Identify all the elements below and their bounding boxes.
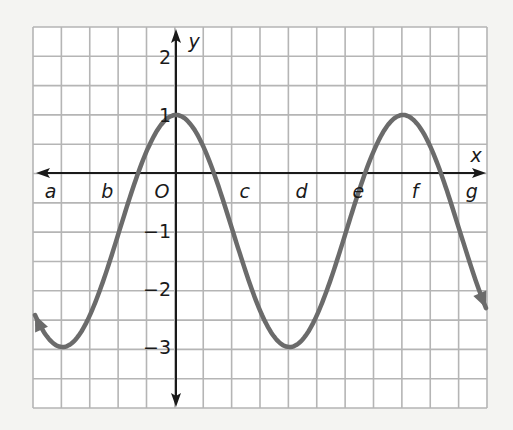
y-tick-label: −3: [143, 336, 171, 358]
x-axis-label: x: [469, 144, 482, 166]
x-tick-label: a: [45, 180, 57, 202]
y-tick-label: −1: [143, 220, 171, 242]
x-tick-label: b: [101, 180, 113, 202]
x-tick-label: O: [155, 180, 170, 202]
cosine-graph: abOcdefg21−1−2−3xy: [0, 0, 513, 430]
x-tick-label: c: [240, 180, 251, 202]
y-tick-label: 2: [159, 46, 171, 68]
y-tick-label: −2: [143, 278, 171, 300]
x-tick-label: e: [352, 180, 364, 202]
x-tick-label: g: [466, 180, 478, 202]
x-tick-label: d: [295, 180, 308, 202]
y-tick-label: 1: [159, 104, 171, 126]
y-axis-label: y: [187, 30, 200, 52]
